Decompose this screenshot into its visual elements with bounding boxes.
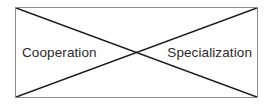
label-specialization: Specialization xyxy=(167,46,252,60)
diagram-box: Cooperation Specialization xyxy=(15,7,258,98)
diagram-canvas: Cooperation Specialization xyxy=(0,0,270,107)
label-cooperation: Cooperation xyxy=(22,46,97,60)
